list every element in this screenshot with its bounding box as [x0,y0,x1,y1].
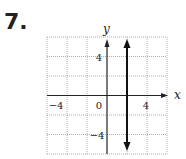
coordinate-plane: −4 0 4 4 −4 x y [0,0,186,159]
x-tick-4: 4 [143,100,149,111]
y-axis-arrow-icon [105,39,110,47]
y-axis-label: y [102,22,110,36]
y-tick-neg4: −4 [90,130,105,141]
y-tick-4: 4 [96,52,102,63]
x-axis-label: x [174,88,181,102]
x-tick-neg4: −4 [49,100,64,111]
line-top-arrow-icon [124,39,131,48]
x-tick-0: 0 [96,100,102,111]
line-bottom-arrow-icon [124,142,131,151]
